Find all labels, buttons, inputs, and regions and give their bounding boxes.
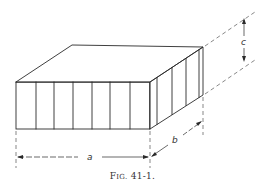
dimension-a	[17, 155, 149, 159]
label-b: b	[172, 135, 178, 145]
right-face-dividers	[157, 50, 199, 125]
slab-diagram: a b c	[0, 0, 265, 196]
label-c: c	[241, 37, 246, 47]
top-face	[16, 45, 203, 82]
caption-number: 41-1.	[131, 171, 156, 181]
figure-caption: FIG. 41-1.	[0, 171, 265, 181]
right-face	[150, 47, 203, 129]
label-a: a	[87, 152, 93, 162]
caption-small: IG.	[116, 173, 127, 181]
